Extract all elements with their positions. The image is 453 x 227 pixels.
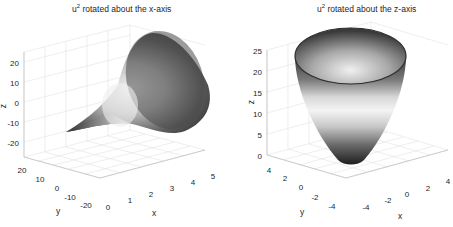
z-tick: 25: [253, 47, 262, 56]
plot-x-axis-rotation: u2 rotated about the x-axis: [0, 0, 226, 227]
y-axis-label: y: [300, 207, 305, 217]
z-axis-label: z: [246, 100, 256, 104]
surface-plot-right: 25 20 15 10 5 0 z 4 2 0 -2 -4 y -4 -2 0 …: [226, 0, 453, 227]
x-tick: 5: [211, 172, 216, 181]
y-tick: 20: [18, 166, 27, 175]
x-axis-line: [100, 150, 205, 178]
y-tick: -20: [80, 201, 92, 210]
y-tick: 4: [267, 166, 272, 175]
y-tick: 0: [299, 183, 304, 192]
x-tick: 0: [405, 190, 410, 199]
y-axis-line: [267, 155, 346, 178]
x-tick: -4: [362, 203, 370, 212]
y-tick: 10: [36, 175, 45, 184]
z-axis-label: z: [0, 104, 8, 108]
x-tick: 2: [149, 190, 154, 199]
z-tick: -10: [7, 119, 19, 128]
plot-z-axis-rotation: u2 rotated about the z-axis: [226, 0, 453, 227]
y-tick: -2: [311, 193, 319, 202]
x-tick: 0: [106, 203, 111, 212]
z-tick: 10: [10, 79, 19, 88]
x-axis-label: x: [398, 211, 403, 221]
z-tick: 15: [253, 89, 262, 98]
z-tick: 20: [10, 59, 19, 68]
z-tick: 10: [253, 110, 262, 119]
x-tick: 4: [446, 177, 451, 186]
z-tick: 5: [258, 131, 263, 140]
x-tick: 1: [128, 196, 133, 205]
y-tick: 0: [55, 184, 60, 193]
y-tick: -4: [328, 202, 336, 211]
z-tick: 0: [15, 99, 20, 108]
y-tick: -10: [64, 193, 76, 202]
x-tick: 2: [426, 184, 431, 193]
y-tick: 2: [283, 174, 288, 183]
surface-plot-left: 20 10 0 -10 -20 z 20 10 0 -10 -20 y 0 1 …: [0, 0, 226, 227]
x-tick: 3: [170, 184, 175, 193]
z-tick: 0: [258, 152, 263, 161]
z-tick: -20: [7, 139, 19, 148]
z-tick: 20: [253, 68, 262, 77]
x-tick: 4: [191, 178, 196, 187]
y-axis-label: y: [56, 206, 61, 216]
x-tick: -2: [384, 196, 392, 205]
x-axis-label: x: [152, 208, 157, 218]
